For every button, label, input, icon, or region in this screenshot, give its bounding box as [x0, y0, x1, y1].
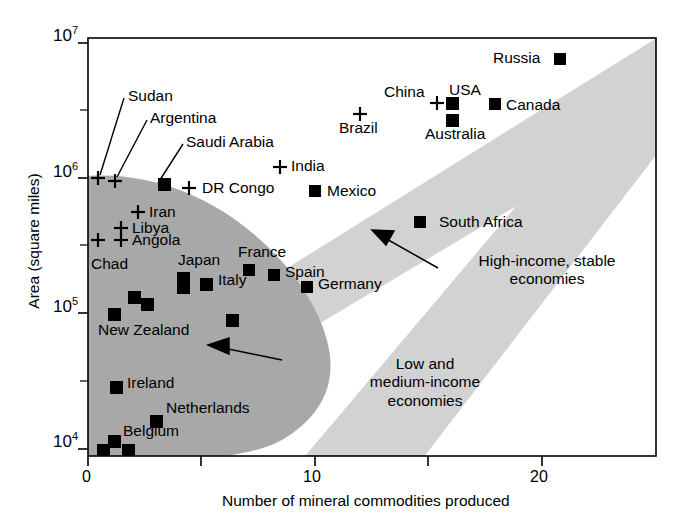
point-label-australia: Australia [425, 126, 485, 143]
marker-new-zealand [108, 308, 121, 321]
xtick-label-0: 0 [82, 468, 91, 486]
point-label-france: France [238, 244, 286, 261]
marker-saudi-arabia [158, 178, 171, 191]
point-label-new-zealand: New Zealand [98, 322, 189, 339]
point-label-japan: Japan [178, 252, 220, 269]
point-label-saudi-arabia: Saudi Arabia [186, 134, 274, 151]
xtick-label-20: 20 [530, 468, 548, 486]
point-label-angola: Angola [132, 232, 180, 249]
marker-italy [200, 278, 213, 291]
point-label-dr-congo: DR Congo [202, 180, 274, 197]
point-label-india: India [291, 158, 325, 175]
xtick-label-10: 10 [303, 468, 321, 486]
marker-unlabeled-2 [141, 298, 154, 311]
marker-russia [554, 53, 566, 65]
point-label-russia: Russia [493, 50, 540, 67]
y-axis-title: Area (square miles) [25, 151, 43, 331]
x-axis-ticks [88, 456, 542, 466]
point-label-brazil: Brazil [339, 120, 378, 137]
point-label-usa: USA [449, 82, 481, 99]
point-label-canada: Canada [506, 97, 560, 114]
point-label-mexico: Mexico [327, 183, 376, 200]
ytick-label-1e6: 106 [53, 160, 78, 182]
marker-china [430, 96, 444, 110]
point-label-argentina: Argentina [150, 110, 216, 127]
marker-unlabeled-4 [97, 444, 110, 456]
leader-line-argentina [117, 120, 147, 177]
marker-spain [268, 269, 280, 281]
marker-india [273, 160, 287, 174]
leader-line-saudi-arabia [158, 144, 183, 183]
ytick-label-1e4: 104 [53, 430, 78, 452]
marker-unlabeled-5 [122, 444, 135, 456]
point-label-south-africa: South Africa [439, 214, 523, 231]
point-label-germany: Germany [318, 276, 382, 293]
point-label-ireland: Ireland [127, 375, 174, 392]
ytick-label-1e5: 105 [53, 295, 78, 317]
point-label-china: China [384, 84, 425, 101]
scatter-plot-figure: 107 106 105 104 0 10 20 Area (square mil… [0, 0, 683, 524]
marker-unlabeled-3 [226, 314, 239, 327]
marker-germany [301, 281, 313, 293]
marker-ireland [110, 381, 123, 394]
marker-south-africa [414, 216, 426, 228]
marker-unlabeled-1 [128, 291, 141, 304]
marker-japan [177, 272, 190, 294]
point-label-sudan: Sudan [128, 88, 173, 105]
annotation-low-medium-income: Low and medium-income economies [330, 355, 520, 410]
ytick-label-1e7: 107 [53, 24, 78, 46]
low-medium-income-band-shape [88, 176, 331, 462]
point-label-italy: Italy [218, 272, 246, 289]
y-axis-ticks [78, 43, 88, 449]
x-axis-title: Number of mineral commodities produced [222, 492, 510, 510]
marker-mexico [309, 185, 321, 197]
marker-usa [446, 97, 459, 110]
point-label-belgium: Belgium [123, 423, 179, 440]
marker-canada [489, 98, 501, 110]
point-label-chad: Chad [91, 256, 128, 273]
annotation-high-income: High-income, stable economies [452, 252, 642, 289]
leader-line-sudan [100, 98, 124, 175]
point-label-netherlands: Netherlands [166, 400, 250, 417]
